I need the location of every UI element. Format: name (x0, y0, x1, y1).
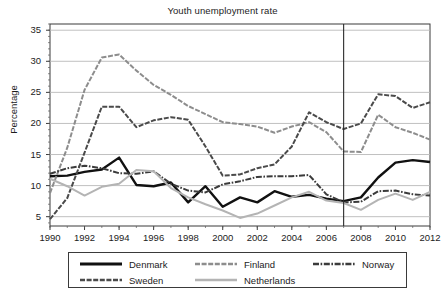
legend-swatch-norway (312, 258, 356, 270)
legend-label: Netherlands (244, 275, 295, 286)
legend-item-denmark[interactable]: Denmark (79, 257, 168, 271)
legend-label: Finland (244, 259, 275, 270)
legend-swatch-netherlands (194, 274, 238, 286)
legend-item-norway[interactable]: Norway (312, 257, 394, 271)
legend-label: Denmark (129, 259, 168, 270)
chart-legend: DenmarkFinlandNorwaySwedenNetherlands (68, 252, 407, 288)
legend-swatch-finland (194, 258, 238, 270)
legend-swatch-denmark (79, 258, 123, 270)
legend-label: Norway (362, 259, 394, 270)
chart-figure: Youth unemployment rate Percentage 51015… (0, 0, 445, 301)
legend-item-finland[interactable]: Finland (194, 257, 275, 271)
legend-item-netherlands[interactable]: Netherlands (194, 273, 295, 287)
legend-swatch-sweden (79, 274, 123, 286)
legend-item-sweden[interactable]: Sweden (79, 273, 163, 287)
legend-label: Sweden (129, 275, 163, 286)
